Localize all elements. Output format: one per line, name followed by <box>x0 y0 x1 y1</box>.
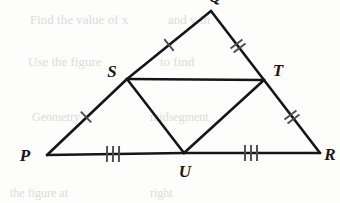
vertex-label-q: Q <box>209 0 221 6</box>
geometry-figure: Find the value of xand y inUse the figur… <box>0 0 340 203</box>
vertex-label-p: P <box>19 146 31 165</box>
triangle-diagram-svg: QSTPUR <box>0 0 340 203</box>
segment-pu <box>47 153 184 155</box>
segment-qt <box>211 11 264 80</box>
segments-group <box>47 11 320 155</box>
segment-st <box>127 79 264 80</box>
vertex-label-s: S <box>107 62 116 81</box>
segment-su <box>127 79 184 153</box>
segment-ut <box>184 80 264 153</box>
vertex-label-u: U <box>179 162 192 181</box>
vertex-label-t: T <box>273 61 284 80</box>
vertex-label-r: R <box>323 145 335 164</box>
segment-tr <box>264 80 320 153</box>
tick-marks-group <box>81 39 300 162</box>
